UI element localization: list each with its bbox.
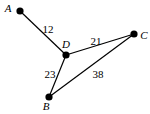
weight-label-A-D: 12 — [43, 23, 54, 35]
node-A — [16, 7, 23, 14]
node-label-B: B — [43, 100, 50, 112]
weight-label-D-C: 21 — [91, 35, 102, 47]
node-D — [62, 51, 69, 58]
weight-label-B-C: 38 — [93, 68, 105, 80]
weight-label-D-B: 23 — [45, 68, 57, 80]
node-label-C: C — [140, 29, 148, 41]
node-label-D: D — [61, 38, 70, 50]
node-label-A: A — [4, 2, 12, 14]
node-C — [130, 30, 137, 37]
graph-diagram: A B C D 12 21 23 38 — [0, 0, 150, 114]
